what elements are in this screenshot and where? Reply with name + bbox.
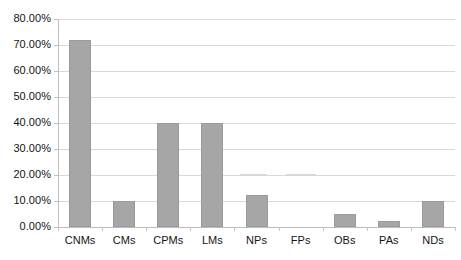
y-axis-tick <box>54 175 58 176</box>
x-axis-tick <box>411 227 412 231</box>
y-axis-label: 10.00% <box>0 194 51 206</box>
y-axis-tick <box>54 123 58 124</box>
x-axis-tick <box>190 227 191 231</box>
y-axis-label: 60.00% <box>0 64 51 76</box>
y-axis-tick <box>54 71 58 72</box>
y-axis-tick <box>54 201 58 202</box>
x-axis-tick <box>279 227 280 231</box>
x-axis-tick <box>102 227 103 231</box>
x-axis-tick <box>323 227 324 231</box>
y-axis-label: 50.00% <box>0 90 51 102</box>
gridline-20 <box>58 175 455 176</box>
y-axis-tick <box>54 149 58 150</box>
x-axis-tick <box>146 227 147 231</box>
bar-obs <box>334 214 356 227</box>
x-axis-label-cpms: CPMs <box>146 234 190 246</box>
gridline-50 <box>58 97 455 98</box>
bar-cpms <box>157 123 179 227</box>
bar-cnms <box>69 40 91 227</box>
x-axis-label-cnms: CNMs <box>58 234 102 246</box>
bar-lms <box>201 123 223 227</box>
y-axis-label: 0.00% <box>0 220 51 232</box>
scan-artifact-right <box>286 174 316 175</box>
y-axis-tick <box>54 97 58 98</box>
x-axis-label-pas: PAs <box>367 234 411 246</box>
gridline-40 <box>58 123 455 124</box>
bar-pas <box>378 221 400 228</box>
x-axis-label-lms: LMs <box>190 234 234 246</box>
bar-nps <box>246 195 268 228</box>
bar-nds <box>422 201 444 227</box>
y-axis-label: 20.00% <box>0 168 51 180</box>
y-axis-label: 30.00% <box>0 142 51 154</box>
gridline-80 <box>58 19 455 20</box>
x-axis-label-nds: NDs <box>411 234 455 246</box>
y-axis-label: 70.00% <box>0 38 51 50</box>
y-axis-tick <box>54 45 58 46</box>
gridline-60 <box>58 71 455 72</box>
y-axis-label: 40.00% <box>0 116 51 128</box>
x-axis-tick <box>455 227 456 231</box>
x-axis-label-nps: NPs <box>234 234 278 246</box>
gridline-70 <box>58 45 455 46</box>
value-axis-line <box>58 19 59 228</box>
gridline-30 <box>58 149 455 150</box>
y-axis-tick <box>54 19 58 20</box>
bar-cms <box>113 201 135 227</box>
gridline-0 <box>58 227 455 228</box>
x-axis-tick <box>58 227 59 231</box>
y-axis-label: 80.00% <box>0 12 51 24</box>
x-axis-label-obs: OBs <box>323 234 367 246</box>
x-axis-label-cms: CMs <box>102 234 146 246</box>
x-axis-tick <box>234 227 235 231</box>
scan-artifact-left <box>240 174 267 175</box>
x-axis-label-fps: FPs <box>279 234 323 246</box>
bar-chart: 0.00%10.00%20.00%30.00%40.00%50.00%60.00… <box>0 0 461 260</box>
x-axis-tick <box>367 227 368 231</box>
plot-area <box>58 19 455 227</box>
